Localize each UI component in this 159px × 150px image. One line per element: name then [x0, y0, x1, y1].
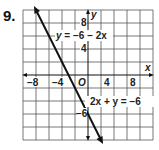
x-axis-label: x [144, 62, 151, 73]
y-tick-label: 8 [81, 17, 87, 28]
equation-label-standard-form: 2x + y = −6 [90, 96, 141, 107]
origin-label: O [78, 77, 86, 88]
y-tick-label: −6 [76, 108, 88, 119]
x-tick-label: −4 [52, 77, 64, 88]
x-tick-label: 4 [104, 77, 110, 88]
y-tick-label: 4 [81, 43, 87, 54]
y-axis-label: y [90, 9, 97, 20]
equation-label-slope-form: y = −6 − 2x [55, 30, 107, 41]
x-tick-label: 8 [130, 77, 136, 88]
x-tick-label: −8 [27, 77, 39, 88]
coordinate-graph: −8 −4 O 4 8 8 4 −6 y x y = −6 − 2x 2x + … [0, 0, 159, 150]
